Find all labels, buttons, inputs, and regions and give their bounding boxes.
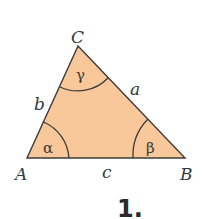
vertex-label-b: B [179, 164, 193, 184]
side-label-a: a [130, 79, 140, 99]
side-label-c: c [102, 162, 112, 182]
angle-label-alpha: α [43, 139, 53, 157]
triangle-figure: C A B b a c γ α β 1. [0, 0, 205, 219]
angle-label-gamma: γ [76, 66, 85, 84]
vertex-label-c: C [71, 27, 84, 47]
vertex-label-a: A [13, 164, 27, 184]
figure-number: 1. [117, 195, 143, 219]
angle-label-beta: β [146, 139, 155, 157]
side-label-b: b [34, 94, 45, 114]
triangle-diagram: C A B b a c γ α β 1. [0, 0, 205, 219]
